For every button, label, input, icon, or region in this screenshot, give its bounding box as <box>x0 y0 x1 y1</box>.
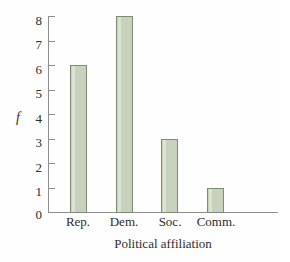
y-tick-7 <box>48 41 55 42</box>
bar-chart-figure: 8 7 6 5 4 3 2 1 0 f Rep. Dem. Soc. Comm.… <box>0 0 290 262</box>
y-axis-label: f <box>10 111 26 125</box>
bar-sheen <box>118 17 121 212</box>
y-tick-label-5: 5 <box>22 87 42 100</box>
y-tick-6 <box>48 65 55 66</box>
y-tick-label-0: 0 <box>22 208 42 221</box>
y-tick-4 <box>48 114 55 115</box>
bar-rep <box>70 65 87 213</box>
y-tick-label-8: 8 <box>22 14 42 27</box>
y-tick-5 <box>48 90 55 91</box>
y-tick-3 <box>48 139 55 140</box>
y-tick-label-7: 7 <box>22 38 42 51</box>
bar-sheen <box>72 66 75 212</box>
y-tick-label-2: 2 <box>22 161 42 174</box>
x-axis-title: Political affiliation <box>48 236 278 252</box>
bar-sheen <box>209 189 212 212</box>
bar-dem <box>116 16 133 213</box>
y-tick-1 <box>48 188 55 189</box>
y-tick-label-6: 6 <box>22 63 42 76</box>
plot-area: 8 7 6 5 4 3 2 1 0 f Rep. Dem. Soc. Comm.… <box>0 0 290 262</box>
y-tick-2 <box>48 163 55 164</box>
bar-comm <box>207 188 224 213</box>
x-tick-label-comm: Comm. <box>181 215 251 229</box>
y-tick-8 <box>48 16 55 17</box>
bar-sheen <box>163 140 166 212</box>
y-tick-label-3: 3 <box>22 136 42 149</box>
bar-soc <box>161 139 178 213</box>
y-tick-label-1: 1 <box>22 185 42 198</box>
